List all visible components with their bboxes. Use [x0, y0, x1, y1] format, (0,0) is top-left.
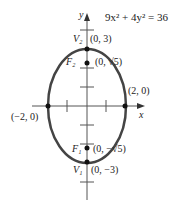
v2-label: V₂	[73, 34, 83, 44]
vertex-v1-dot	[85, 160, 90, 165]
ellipse-diagram	[0, 0, 174, 213]
v2-coord: (0, 3)	[90, 34, 112, 44]
ellipse-equation: 9x² + 4y² = 36	[105, 12, 168, 23]
v1-coord: (0, −3)	[91, 165, 118, 175]
y-axis-label: y	[79, 10, 83, 20]
vertex-v2-dot	[85, 47, 90, 52]
f1-label: F₁	[72, 144, 82, 154]
right-vertex-coord: (2, 0)	[128, 86, 150, 96]
f1-coord: (0, −√5)	[93, 144, 126, 154]
right-vertex-dot	[123, 104, 128, 109]
left-vertex-dot	[46, 104, 51, 109]
focus-f1-dot	[85, 146, 90, 151]
v1-label: V₁	[73, 165, 83, 175]
f2-label: F₂	[66, 57, 76, 67]
focus-f2-dot	[85, 61, 90, 66]
f2-coord: (0, √5)	[95, 57, 122, 67]
y-axis-arrow-icon	[84, 13, 90, 21]
left-vertex-coord: (−2, 0)	[11, 112, 38, 122]
x-axis-label: x	[139, 110, 143, 120]
